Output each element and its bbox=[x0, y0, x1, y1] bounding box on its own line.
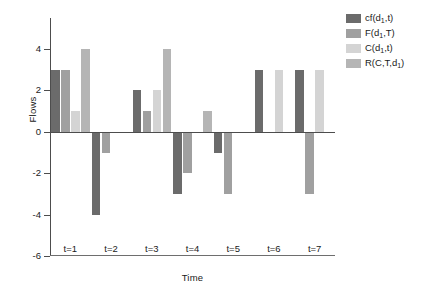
y-axis-line bbox=[50, 18, 51, 256]
y-tick-label: -2 bbox=[33, 167, 41, 178]
y-tick: 2 bbox=[44, 90, 50, 91]
x-tick-label: t=6 bbox=[254, 243, 295, 254]
y-tick-label: -4 bbox=[33, 209, 41, 220]
bar bbox=[102, 132, 111, 153]
x-tick-label: t=3 bbox=[131, 243, 172, 254]
plot-area: 420-2-4-6 bbox=[50, 18, 335, 256]
x-tick-label: t=7 bbox=[294, 243, 335, 254]
x-axis-line bbox=[50, 255, 335, 256]
bar bbox=[275, 70, 284, 132]
y-tick-label: -6 bbox=[33, 250, 41, 261]
y-tick-label: 0 bbox=[36, 126, 41, 137]
bar bbox=[305, 132, 314, 194]
legend-swatch-icon bbox=[346, 59, 361, 68]
legend-item-label: F(d1,T) bbox=[365, 28, 395, 38]
legend-item-label: C(d1,t) bbox=[365, 43, 393, 53]
legend-item-label: cf(d1,t) bbox=[365, 13, 393, 23]
y-tick: -2 bbox=[44, 173, 50, 174]
x-tick-label: t=2 bbox=[91, 243, 132, 254]
zero-reference-line bbox=[50, 132, 335, 133]
bar bbox=[214, 132, 223, 153]
bar bbox=[71, 111, 80, 132]
legend: cf(d1,t)F(d1,T)C(d1,t)R(C,T,d1) bbox=[346, 11, 404, 71]
legend-swatch-icon bbox=[346, 44, 361, 53]
y-tick-label: 4 bbox=[36, 43, 41, 54]
y-tick: -6 bbox=[44, 256, 50, 257]
bar bbox=[173, 132, 182, 194]
bar bbox=[203, 111, 212, 132]
bar bbox=[81, 49, 90, 132]
legend-swatch-icon bbox=[346, 29, 361, 38]
bar bbox=[163, 49, 172, 132]
bar bbox=[61, 70, 70, 132]
x-tick-label: t=4 bbox=[172, 243, 213, 254]
y-tick-label: 2 bbox=[36, 84, 41, 95]
legend-item-f-d1-t[interactable]: F(d1,T) bbox=[346, 26, 404, 40]
y-tick: 4 bbox=[44, 49, 50, 50]
bar bbox=[92, 132, 101, 215]
legend-item-r-c-t-d1[interactable]: R(C,T,d1) bbox=[346, 56, 404, 70]
bar bbox=[51, 70, 60, 132]
x-tick-label: t=5 bbox=[213, 243, 254, 254]
y-tick: -4 bbox=[44, 215, 50, 216]
bar bbox=[295, 70, 304, 132]
legend-swatch-icon bbox=[346, 14, 361, 23]
legend-item-c-d1-t[interactable]: C(d1,t) bbox=[346, 41, 404, 55]
bar bbox=[143, 111, 152, 132]
bar-chart: Flows 420-2-4-6 t=1t=2t=3t=4t=5t=6t=7 Ti… bbox=[0, 0, 429, 303]
bar bbox=[153, 90, 162, 131]
legend-item-label: R(C,T,d1) bbox=[365, 58, 404, 68]
bar bbox=[224, 132, 233, 194]
bar bbox=[133, 90, 142, 131]
bar bbox=[183, 132, 192, 173]
x-tick-label: t=1 bbox=[50, 243, 91, 254]
x-axis-title: Time bbox=[50, 272, 335, 283]
legend-item-cf-d1-t[interactable]: cf(d1,t) bbox=[346, 11, 404, 25]
bar bbox=[255, 70, 264, 132]
bar bbox=[315, 70, 324, 132]
